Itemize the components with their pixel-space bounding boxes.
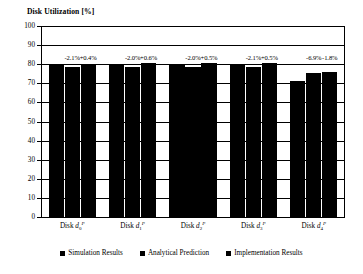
legend-item-label: Simulation Results [68, 250, 123, 257]
bar-value-annotation: +0.5% [195, 55, 223, 62]
bar [306, 73, 321, 217]
bar [246, 67, 261, 217]
bar [290, 81, 305, 217]
legend-swatch-icon [226, 251, 231, 256]
y-axis-tick-label: 40 [13, 138, 35, 145]
bar [322, 72, 337, 217]
y-axis-tick-label: 60 [13, 99, 35, 106]
y-axis-tick-mark [37, 217, 41, 218]
legend-item: Simulation Results [60, 250, 123, 257]
y-axis-tick-label: 90 [13, 42, 35, 49]
chart-legend: Simulation ResultsAnalytical PredictionI… [0, 250, 363, 257]
y-axis-tick-label: 0 [13, 214, 35, 221]
bar [185, 67, 200, 217]
y-axis-tick-label: 20 [13, 176, 35, 183]
x-axis-category-label: Disk d0P [42, 222, 102, 231]
bar-value-annotation: +0.6% [135, 55, 163, 62]
disk-utilization-bar-chart: Disk Utilization [%] 0102030405060708090… [0, 0, 363, 274]
bar [109, 64, 124, 217]
y-axis-tick-label: 10 [13, 195, 35, 202]
legend-item: Analytical Prediction [140, 250, 209, 257]
y-axis-tick-label: 70 [13, 80, 35, 87]
y-axis-tick-label: 50 [13, 119, 35, 126]
x-axis-category-label: Disk d2P [163, 222, 223, 231]
y-axis-tick-mark [37, 102, 41, 103]
y-axis-tick-mark [37, 64, 41, 65]
bar-value-annotation: -1.8% [316, 55, 344, 62]
y-axis-tick-mark [37, 45, 41, 46]
y-axis-tick-mark [37, 26, 41, 27]
y-axis-tick-label: 80 [13, 61, 35, 68]
x-axis-category-label: Disk d4P [284, 222, 344, 231]
legend-item-label: Analytical Prediction [148, 250, 209, 257]
y-axis-tick-mark [37, 83, 41, 84]
chart-title: Disk Utilization [%] [27, 7, 94, 16]
y-axis-tick-mark [37, 160, 41, 161]
y-axis-tick-label: 100 [13, 23, 35, 30]
bar [65, 67, 80, 217]
y-axis-tick-mark [37, 198, 41, 199]
bar [125, 67, 140, 217]
y-axis-tick-mark [37, 141, 41, 142]
legend-swatch-icon [140, 251, 145, 256]
y-axis-tick-mark [37, 179, 41, 180]
bar [49, 64, 64, 217]
bar [81, 64, 96, 217]
bar [141, 63, 156, 217]
bar-value-annotation: +0.5% [255, 55, 283, 62]
bar [201, 63, 216, 217]
x-axis-category-label: Disk d1P [103, 222, 163, 231]
y-axis-tick-mark [37, 122, 41, 123]
bar [230, 64, 245, 217]
y-axis-tick-label: 30 [13, 157, 35, 164]
legend-item-label: Implementation Results [234, 250, 302, 257]
legend-swatch-icon [60, 251, 65, 256]
legend-item: Implementation Results [226, 250, 302, 257]
bar [262, 63, 277, 217]
x-axis-category-label: Disk d3P [223, 222, 283, 231]
bar [169, 64, 184, 217]
bar-value-annotation: +0.4% [74, 55, 102, 62]
